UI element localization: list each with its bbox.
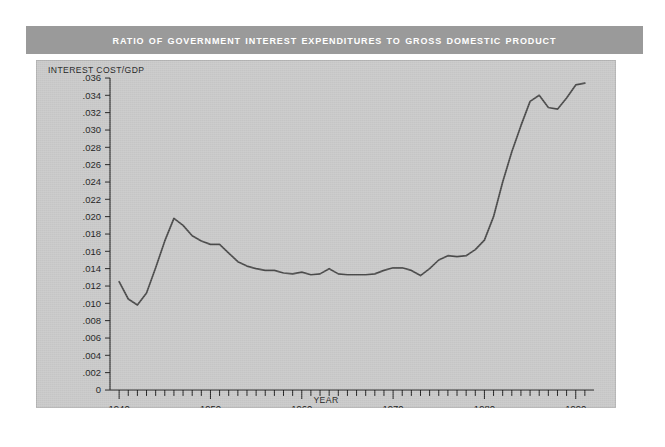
line-chart-plot: 0.002.004.006.008.010.012.014.016.018.02… (36, 60, 616, 408)
y-tick-label: .016 (83, 246, 102, 257)
y-tick-label: .020 (83, 211, 102, 222)
x-tick-label: 1990 (565, 403, 586, 408)
y-tick-label: .006 (83, 332, 102, 343)
y-tick-label: .002 (83, 367, 102, 378)
y-tick-label: .004 (83, 350, 102, 361)
y-tick-label: .022 (83, 194, 102, 205)
y-tick-label: .026 (83, 159, 102, 170)
page-title: Ratio of Government Interest Expenditure… (113, 33, 557, 47)
x-axis-label: YEAR (313, 395, 338, 405)
data-series-line (119, 83, 585, 305)
y-tick-label: 0 (96, 384, 101, 395)
y-tick-label: .012 (83, 280, 102, 291)
y-tick-label: .032 (83, 107, 102, 118)
x-tick-label: 1950 (200, 403, 221, 408)
y-axis: 0.002.004.006.008.010.012.014.016.018.02… (83, 72, 111, 395)
y-tick-label: .014 (83, 263, 102, 274)
y-tick-label: .028 (83, 142, 102, 153)
x-tick-label: 1960 (291, 403, 312, 408)
y-tick-label: .034 (83, 90, 102, 101)
chart-figure: Ratio of Government Interest Expenditure… (0, 0, 665, 447)
x-axis: 194019501960197019801990 (109, 390, 594, 408)
x-tick-label: 1980 (474, 403, 495, 408)
x-tick-label: 1970 (383, 403, 404, 408)
data-series-group (119, 83, 585, 305)
chart-title-bar: Ratio of Government Interest Expenditure… (26, 26, 643, 54)
y-tick-label: .018 (83, 228, 102, 239)
y-tick-label: .030 (83, 124, 102, 135)
y-tick-label: .008 (83, 315, 102, 326)
y-tick-label: .010 (83, 298, 102, 309)
y-axis-label: INTEREST COST/GDP (48, 65, 144, 75)
x-tick-label: 1940 (109, 403, 130, 408)
y-tick-label: .024 (83, 176, 102, 187)
